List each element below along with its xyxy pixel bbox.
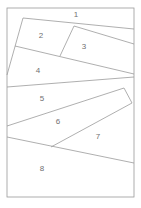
region-label-3: 3	[82, 42, 87, 51]
region-label-4: 4	[36, 66, 41, 75]
edge-region-2-3	[60, 26, 134, 56]
region-label-1: 1	[74, 10, 79, 19]
edge-region-6-7	[7, 88, 132, 147]
edge-region-1-2	[7, 18, 134, 75]
frame-border	[7, 8, 134, 197]
edge-region-2-4	[15, 46, 134, 74]
region-label-2: 2	[39, 31, 44, 40]
region-diagram: 1 2 3 4 5 6 7 8	[0, 0, 141, 208]
region-label-7: 7	[96, 132, 101, 141]
edge-region-6-8	[7, 137, 134, 163]
edge-region-4-5	[7, 77, 134, 87]
region-label-5: 5	[40, 94, 45, 103]
region-label-6: 6	[56, 117, 61, 126]
region-label-8: 8	[40, 164, 45, 173]
